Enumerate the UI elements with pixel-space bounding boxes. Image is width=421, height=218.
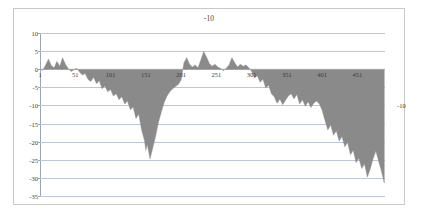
y-axis-tick-label: -20 — [29, 138, 38, 145]
y-axis-tick-label: -30 — [29, 174, 38, 181]
x-axis-tick-label: 251 — [212, 71, 222, 78]
chart-frame: -10 1050-5-10-15-20-25-30-35 15110115120… — [13, 8, 405, 205]
x-axis-tick-label: 51 — [72, 71, 79, 78]
y-axis-tick-label: -25 — [29, 156, 38, 163]
x-axis-tick-label: 351 — [282, 71, 292, 78]
x-axis-tick-label: 101 — [106, 71, 116, 78]
x-axis-line — [40, 69, 385, 70]
series-area — [40, 33, 385, 196]
x-axis-tick-label: 401 — [317, 71, 327, 78]
y-axis-tick-label: -10 — [29, 102, 38, 109]
gridline — [40, 196, 385, 197]
x-axis-tick-label: 301 — [247, 71, 257, 78]
plot-area: 1050-5-10-15-20-25-30-35 151101151201251… — [40, 33, 385, 196]
x-axis-tick-label: 1 — [38, 71, 41, 78]
y-axis-tick-label: -15 — [29, 120, 38, 127]
y-axis-tick-label: -35 — [29, 193, 38, 200]
legend-entry: -10 — [397, 102, 406, 109]
x-axis-tick-label: 201 — [176, 71, 186, 78]
chart-title: -10 — [14, 14, 404, 23]
y-axis-tick — [38, 196, 40, 197]
x-axis-tick-label: 151 — [141, 71, 151, 78]
x-axis-tick-label: 451 — [353, 71, 363, 78]
